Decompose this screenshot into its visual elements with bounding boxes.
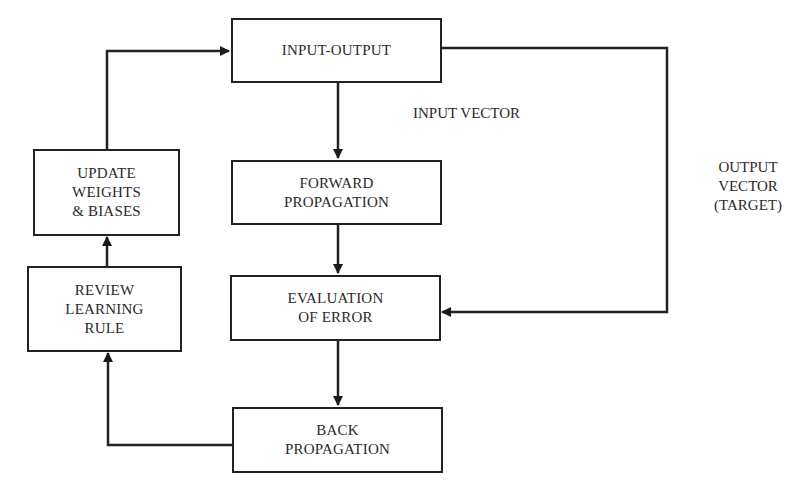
node-label-line1: UPDATE [72, 164, 141, 183]
node-forward-propagation: FORWARD PROPAGATION [231, 160, 442, 225]
label-line2: VECTOR [708, 177, 788, 196]
label-line3: (TARGET) [708, 196, 788, 215]
label-input-vector: INPUT VECTOR [413, 104, 520, 123]
label-output-vector-target: OUTPUT VECTOR (TARGET) [708, 158, 788, 215]
node-label: INPUT-OUTPUT [282, 41, 391, 60]
node-label-line3: & BIASES [72, 202, 141, 221]
node-label-line1: REVIEW [65, 281, 143, 300]
node-label-line1: EVALUATION [288, 289, 384, 308]
node-label-line2: OF ERROR [288, 308, 384, 327]
edge-back-to-review [108, 353, 232, 445]
node-evaluation-of-error: EVALUATION OF ERROR [230, 275, 441, 341]
label-line1: OUTPUT [708, 158, 788, 177]
node-update-weights-biases: UPDATE WEIGHTS & BIASES [33, 149, 180, 236]
node-label-line2: WEIGHTS [72, 183, 141, 202]
node-back-propagation: BACK PROPAGATION [232, 407, 443, 473]
edge-update-to-input [107, 51, 229, 149]
node-label-line3: RULE [65, 319, 143, 338]
node-input-output: INPUT-OUTPUT [231, 18, 442, 83]
node-label-line1: BACK [285, 421, 390, 440]
node-label-line2: LEARNING [65, 300, 143, 319]
node-label-line2: PROPAGATION [284, 193, 389, 212]
node-label-line1: FORWARD [284, 174, 389, 193]
node-label-line2: PROPAGATION [285, 440, 390, 459]
node-review-learning-rule: REVIEW LEARNING RULE [27, 266, 182, 352]
edge-target-to-eval [441, 48, 667, 312]
